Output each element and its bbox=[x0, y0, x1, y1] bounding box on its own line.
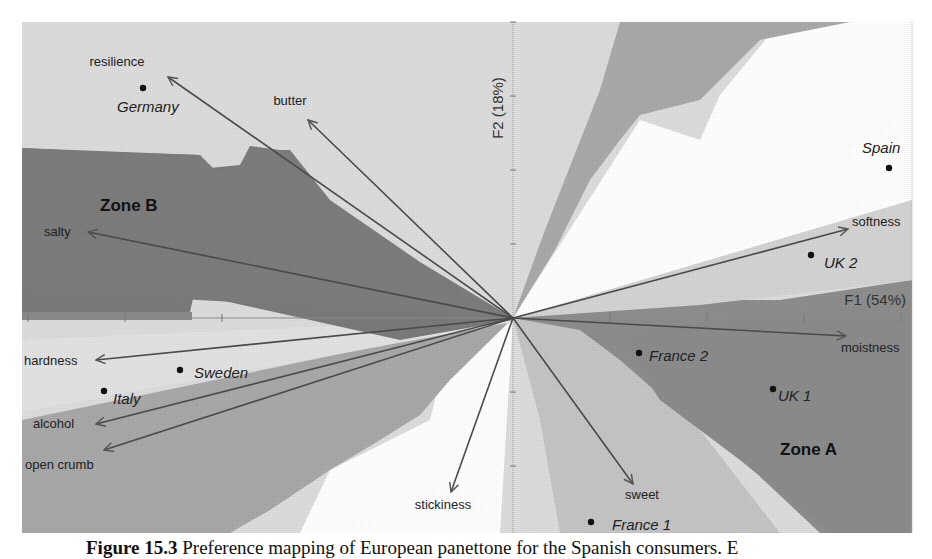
f2-axis-label: F2 (18%) bbox=[489, 77, 506, 139]
point-marker-icon bbox=[140, 85, 146, 91]
point-marker-icon bbox=[808, 252, 814, 258]
observation-label: UK 1 bbox=[778, 387, 811, 404]
variable-label: hardness bbox=[24, 353, 78, 368]
observation-label: Sweden bbox=[194, 364, 248, 381]
observation-label: UK 2 bbox=[824, 254, 858, 271]
observation-label: France 1 bbox=[612, 516, 671, 533]
point-marker-icon bbox=[770, 386, 776, 392]
observation-label: France 2 bbox=[649, 347, 709, 364]
f1-axis-label: F1 (54%) bbox=[844, 291, 906, 308]
zone-label: Zone B bbox=[100, 196, 158, 215]
observation-label: Italy bbox=[113, 390, 142, 407]
variable-label: salty bbox=[44, 224, 71, 239]
variable-label: open crumb bbox=[25, 457, 94, 472]
variable-label: butter bbox=[273, 93, 307, 108]
point-marker-icon bbox=[588, 519, 594, 525]
caption-label: Figure 15.3 bbox=[86, 537, 177, 558]
caption-text: Preference mapping of European panettone… bbox=[177, 537, 738, 558]
variable-label: stickiness bbox=[415, 497, 472, 512]
point-marker-icon bbox=[177, 367, 183, 373]
zone-label: Zone A bbox=[780, 440, 837, 459]
point-marker-icon bbox=[101, 388, 107, 394]
variable-label: resilience bbox=[90, 54, 145, 69]
point-marker-icon bbox=[886, 165, 892, 171]
variable-label: moistness bbox=[841, 340, 900, 355]
observation-label: Germany bbox=[117, 98, 180, 115]
variable-label: softness bbox=[852, 214, 901, 229]
figure-caption: Figure 15.3 Preference mapping of Europe… bbox=[86, 537, 738, 559]
point-marker-icon bbox=[636, 350, 642, 356]
variable-label: alcohol bbox=[33, 416, 74, 431]
observation-label: Spain bbox=[862, 139, 900, 156]
variable-label: sweet bbox=[625, 487, 659, 502]
